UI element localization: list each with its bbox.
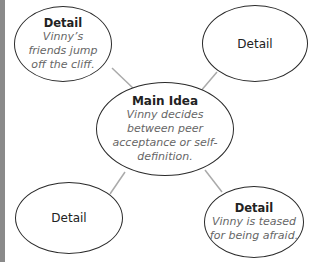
node-title: Detail xyxy=(44,16,83,30)
node-title: Detail xyxy=(235,201,274,215)
node-title: Main Idea xyxy=(132,94,198,108)
detail-node-bottom-left: Detail xyxy=(15,182,123,254)
node-text: Vinny decides between peer acceptance or… xyxy=(103,108,227,164)
detail-node-top-left: Detail Vinny’s friends jump off the clif… xyxy=(14,6,112,82)
detail-node-bottom-right: Detail Vinny is teased for being afraid. xyxy=(204,186,304,258)
main-idea-node: Main Idea Vinny decides between peer acc… xyxy=(96,82,234,176)
node-text: Vinny’s friends jump off the cliff. xyxy=(23,30,103,72)
node-title: Detail xyxy=(237,37,272,51)
node-text: Vinny is teased for being afraid. xyxy=(208,215,300,243)
node-title: Detail xyxy=(51,211,86,225)
detail-node-top-right: Detail xyxy=(202,5,308,82)
